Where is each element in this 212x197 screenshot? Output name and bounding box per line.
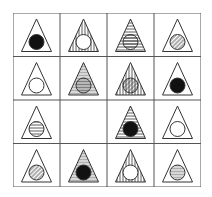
puzzle-cell [22,63,52,96]
puzzle-cell [163,63,193,96]
circle-shape [123,35,138,50]
circle-shape [29,122,44,137]
puzzle-cell [69,19,99,52]
circle-shape [29,35,44,50]
puzzle-cell [163,106,193,139]
circle-shape [170,35,185,50]
circle-shape [170,78,185,93]
circle-shape [123,78,138,93]
circle-shape [76,165,91,180]
circle-shape [29,78,44,93]
circle-shape [170,165,185,180]
circle-shape [29,165,44,180]
puzzle-cell [69,150,99,183]
puzzle-cell [22,106,52,139]
circle-shape [170,122,185,137]
puzzle-cell [69,63,99,96]
puzzle-cell [163,150,193,183]
circle-shape [123,122,138,137]
puzzle-cell [116,150,146,183]
puzzle-cell [22,150,52,183]
circle-shape [76,78,91,93]
puzzle-cell [163,19,193,52]
circle-shape [76,35,91,50]
circle-shape [123,165,138,180]
puzzle-cell [116,106,146,139]
puzzle-cell [22,19,52,52]
puzzle-cell [116,63,146,96]
puzzle-grid-svg [13,13,201,187]
puzzle-cell [116,19,146,52]
puzzle-grid [13,13,201,187]
